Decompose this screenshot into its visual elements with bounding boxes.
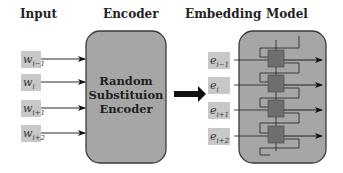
input-token: wi+2 (21, 125, 41, 142)
rnn-cell (268, 75, 284, 92)
input-token: wi+1 (21, 100, 41, 117)
encoder-label: Random Substituion Encoder (86, 74, 166, 116)
input-arrows (41, 59, 85, 133)
header-model: Model (266, 7, 308, 21)
rnn-cell (268, 126, 284, 143)
diagram-canvas (0, 0, 343, 173)
encoder-line-3: Encoder (86, 102, 166, 116)
encoder-line-2: Substituion (86, 88, 166, 102)
header-input: Input (20, 7, 57, 21)
embedding-token: ei+2 (208, 128, 230, 145)
header-embedding: Embedding (185, 7, 261, 21)
big-arrow-icon (174, 86, 206, 102)
rnn-cell (268, 50, 284, 67)
rnn-cell (268, 100, 284, 117)
header-encoder: Encoder (103, 7, 159, 21)
embedding-token: ei−1 (208, 52, 230, 69)
embedding-token: ei (208, 77, 230, 94)
embedding-token: ei+1 (208, 102, 230, 119)
encoder-line-1: Random (86, 74, 166, 88)
input-token: wi−1 (21, 51, 41, 68)
input-token: wi (21, 74, 41, 91)
